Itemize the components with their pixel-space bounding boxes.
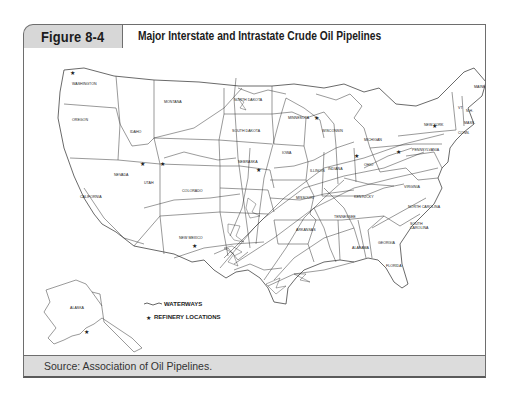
- state-outlines: [58, 68, 485, 304]
- figure-title-box: Major Interstate and Intrastate Crude Oi…: [123, 24, 486, 48]
- svg-text:★: ★: [192, 243, 197, 249]
- svg-text:NEW MEXICO: NEW MEXICO: [179, 236, 203, 240]
- svg-text:NEW YORK: NEW YORK: [424, 123, 444, 127]
- refinery-markers: ★ ★ ★ ★ ★ ★ ★ ★ ★ ★: [70, 70, 437, 335]
- map-legend: WATERWAYS ★ REFINERY LOCATIONS: [144, 301, 221, 321]
- refinery-legend-label: REFINERY LOCATIONS: [154, 314, 221, 320]
- svg-text:PENNSYLVANIA: PENNSYLVANIA: [412, 148, 440, 152]
- svg-text:KENTUCKY: KENTUCKY: [354, 195, 374, 199]
- svg-text:UTAH: UTAH: [144, 181, 154, 185]
- source-text: Source: Association of Oil Pipelines.: [44, 360, 212, 372]
- state-labels: WASHINGTON OREGON IDAHO MONTANA NORTH DA…: [70, 82, 485, 310]
- us-pipeline-map: ★ ★ ★ ★ ★ ★ ★ ★ ★ ★ WASHINGTON OREGON ID…: [24, 48, 485, 355]
- svg-text:N.H.: N.H.: [466, 109, 473, 113]
- svg-text:VT: VT: [458, 106, 463, 110]
- svg-text:NEVADA: NEVADA: [114, 173, 129, 177]
- svg-text:FLORIDA: FLORIDA: [386, 264, 402, 268]
- svg-text:NORTH CAROLINA: NORTH CAROLINA: [408, 205, 441, 209]
- refinery-legend-icon: ★: [146, 315, 151, 321]
- svg-text:CALIFORNIA: CALIFORNIA: [80, 195, 102, 199]
- svg-text:WISCONSIN: WISCONSIN: [322, 129, 343, 133]
- svg-text:OHIO: OHIO: [364, 163, 373, 167]
- svg-text:CAROLINA: CAROLINA: [410, 226, 429, 230]
- svg-text:ILLINOIS: ILLINOIS: [310, 169, 325, 173]
- svg-text:NORTH DAKOTA: NORTH DAKOTA: [234, 98, 263, 102]
- svg-text:MONTANA: MONTANA: [164, 100, 182, 104]
- alaska-outline: [44, 280, 142, 352]
- svg-text:GEORGIA: GEORGIA: [378, 241, 395, 245]
- svg-text:IOWA: IOWA: [282, 151, 292, 155]
- svg-text:ARKANSAS: ARKANSAS: [296, 228, 316, 232]
- svg-text:★: ★: [84, 329, 89, 335]
- svg-text:VIRGINIA: VIRGINIA: [404, 185, 420, 189]
- figure-container: Figure 8-4 Major Interstate and Intrasta…: [23, 24, 486, 378]
- svg-text:OREGON: OREGON: [72, 118, 88, 122]
- svg-text:MINNESOTA: MINNESOTA: [288, 116, 310, 120]
- svg-text:ALASKA: ALASKA: [70, 306, 85, 310]
- figure-title: Major Interstate and Intrastate Crude Oi…: [138, 29, 381, 43]
- svg-text:MICHIGAN: MICHIGAN: [364, 138, 382, 142]
- svg-text:★: ★: [140, 161, 145, 167]
- waterways-legend-icon: [144, 303, 162, 305]
- svg-text:★: ★: [160, 161, 165, 167]
- figure-number: Figure 8-4: [41, 28, 104, 45]
- svg-text:★: ★: [70, 70, 75, 76]
- svg-text:★: ★: [314, 115, 319, 121]
- svg-text:MAINE: MAINE: [474, 85, 485, 89]
- svg-text:INDIANA: INDIANA: [328, 167, 343, 171]
- svg-text:ALABAMA: ALABAMA: [352, 246, 370, 250]
- svg-text:CONN.: CONN.: [458, 131, 470, 135]
- svg-text:TENNESSEE: TENNESSEE: [334, 215, 356, 219]
- figure-body: ★ ★ ★ ★ ★ ★ ★ ★ ★ ★ WASHINGTON OREGON ID…: [23, 48, 486, 355]
- figure-source: Source: Association of Oil Pipelines.: [23, 355, 486, 378]
- svg-text:NEBRASKA: NEBRASKA: [238, 160, 258, 164]
- svg-text:★: ★: [396, 149, 401, 155]
- svg-text:IDAHO: IDAHO: [130, 130, 142, 134]
- pipeline-lines: [84, 78, 444, 286]
- svg-text:★: ★: [256, 167, 261, 173]
- svg-text:WASHINGTON: WASHINGTON: [72, 82, 97, 86]
- svg-text:★: ★: [354, 153, 359, 159]
- svg-text:COLORADO: COLORADO: [182, 189, 203, 193]
- svg-text:MASS.: MASS.: [464, 121, 475, 125]
- figure-number-tab: Figure 8-4: [23, 24, 123, 48]
- figure-header: Figure 8-4 Major Interstate and Intrasta…: [23, 24, 486, 49]
- svg-text:SOUTH DAKOTA: SOUTH DAKOTA: [232, 129, 261, 133]
- svg-text:MISSOURI: MISSOURI: [296, 196, 314, 200]
- waterways-legend-label: WATERWAYS: [164, 301, 202, 307]
